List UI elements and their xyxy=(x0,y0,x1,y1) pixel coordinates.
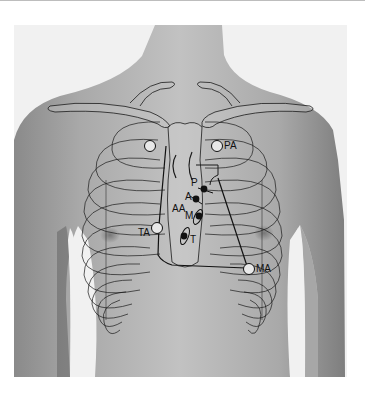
mitral-area-circle xyxy=(244,264,255,275)
aortic-valve-dot xyxy=(193,196,200,203)
chest-illustration: PA P A AA M T TA MA xyxy=(14,25,347,377)
tricuspid-valve-dot xyxy=(181,233,188,240)
label-ma: MA xyxy=(256,263,271,274)
tricuspid-area-circle xyxy=(152,223,163,234)
mitral-valve-dot xyxy=(196,213,203,220)
right-nipple xyxy=(100,227,120,243)
pulmonic-area-circle xyxy=(212,141,223,152)
label-aa: AA xyxy=(172,203,186,214)
label-m: M xyxy=(185,210,193,221)
label-ta: TA xyxy=(138,227,150,238)
pulmonary-valve-dot xyxy=(201,186,208,193)
label-p: P xyxy=(191,177,198,188)
label-a: A xyxy=(185,191,192,202)
chest-diagram-svg: PA P A AA M T TA MA xyxy=(14,25,347,377)
aortic-area-circle xyxy=(145,141,156,152)
top-border xyxy=(0,0,365,1)
label-pa: PA xyxy=(224,140,237,151)
label-t: T xyxy=(190,234,196,245)
